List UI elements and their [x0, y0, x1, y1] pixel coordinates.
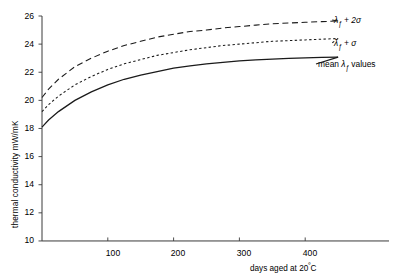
series-line-2 [42, 39, 338, 112]
series-line-1 [42, 21, 338, 98]
curves-group [42, 20, 338, 127]
axes-group [39, 16, 390, 241]
chart-figure: thermal conductivity mW/mK 26 24 22 20 1… [0, 0, 393, 277]
legend-connector-3 [316, 57, 338, 64]
legend-connector-2 [332, 39, 338, 44]
series-line-3 [42, 57, 338, 127]
plot-area [0, 0, 393, 277]
